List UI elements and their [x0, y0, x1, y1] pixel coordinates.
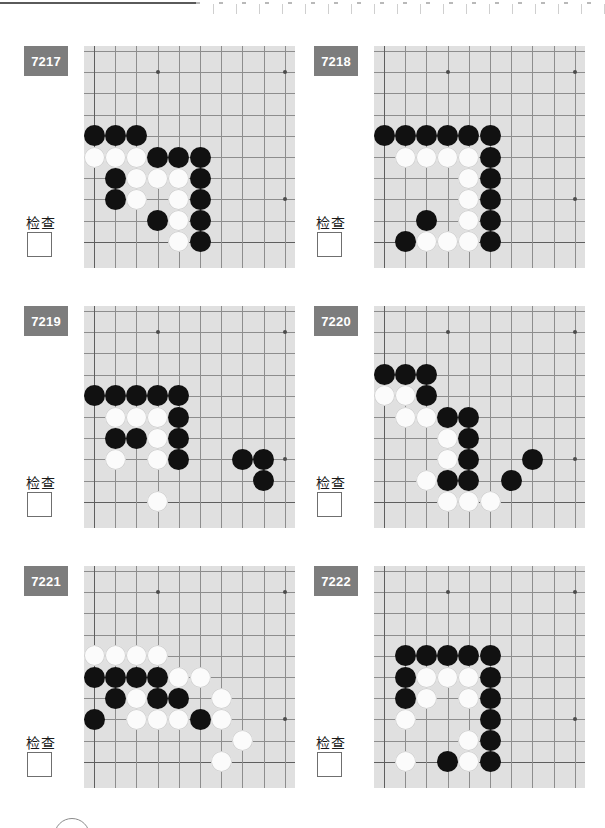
white-stone [168, 709, 189, 730]
black-stone [168, 428, 189, 449]
black-stone [395, 125, 416, 146]
white-stone [395, 147, 416, 168]
black-stone [395, 231, 416, 252]
white-stone [126, 645, 147, 666]
star-point [283, 197, 287, 201]
black-stone [437, 470, 458, 491]
white-stone [437, 667, 458, 688]
black-stone [480, 688, 501, 709]
black-stone [458, 645, 479, 666]
white-stone [437, 428, 458, 449]
grid-line-vertical [200, 306, 201, 528]
white-stone [458, 751, 479, 772]
check-checkbox[interactable] [317, 752, 342, 777]
go-board[interactable] [84, 46, 295, 268]
white-stone [190, 667, 211, 688]
black-stone [395, 645, 416, 666]
problem-id-badge: 7218 [314, 46, 358, 76]
black-stone [480, 645, 501, 666]
check-checkbox[interactable] [317, 232, 342, 257]
star-point [283, 330, 287, 334]
check-label: 检查 [316, 212, 346, 232]
check-checkbox[interactable] [27, 232, 52, 257]
black-stone [105, 385, 126, 406]
grid-line-vertical [264, 566, 265, 788]
white-stone [416, 147, 437, 168]
black-stone [126, 667, 147, 688]
black-stone [126, 125, 147, 146]
check-checkbox[interactable] [27, 752, 52, 777]
star-point [283, 590, 287, 594]
black-stone [126, 428, 147, 449]
white-stone [416, 667, 437, 688]
white-stone [437, 231, 458, 252]
check-label: 检查 [316, 732, 346, 752]
go-board[interactable] [84, 306, 295, 528]
white-stone [168, 210, 189, 231]
white-stone [84, 645, 105, 666]
black-stone [416, 210, 437, 231]
black-stone [168, 147, 189, 168]
star-point [573, 70, 577, 74]
problem-id-badge: 7221 [24, 566, 68, 596]
grid-line-vertical [264, 46, 265, 268]
white-stone [105, 407, 126, 428]
white-stone [126, 688, 147, 709]
go-board-grid [374, 46, 585, 268]
black-stone [458, 428, 479, 449]
grid-line-vertical [285, 566, 286, 788]
grid-line-vertical [532, 46, 533, 268]
star-point [446, 590, 450, 594]
black-stone [190, 147, 211, 168]
black-stone [395, 364, 416, 385]
grid-line-vertical [532, 306, 533, 528]
go-board[interactable] [374, 46, 585, 268]
white-stone [458, 491, 479, 512]
white-stone [126, 189, 147, 210]
go-board-grid [84, 566, 295, 788]
black-stone [105, 428, 126, 449]
black-stone [480, 189, 501, 210]
problem-panel: 7217检查 [24, 46, 295, 274]
go-board[interactable] [374, 566, 585, 788]
black-stone [374, 125, 395, 146]
grid-line-vertical [94, 306, 95, 528]
black-stone [437, 407, 458, 428]
header-rule-solid [0, 2, 196, 4]
black-stone [253, 470, 274, 491]
white-stone [458, 168, 479, 189]
black-stone [147, 385, 168, 406]
grid-line-vertical [532, 566, 533, 788]
black-stone [437, 645, 458, 666]
white-stone [395, 751, 416, 772]
black-stone [458, 407, 479, 428]
go-board[interactable] [84, 566, 295, 788]
white-stone [416, 231, 437, 252]
black-stone [84, 709, 105, 730]
black-stone [84, 667, 105, 688]
check-checkbox[interactable] [27, 492, 52, 517]
go-board-grid [84, 306, 295, 528]
black-stone [480, 231, 501, 252]
go-board[interactable] [374, 306, 585, 528]
check-checkbox[interactable] [317, 492, 342, 517]
problem-id-badge: 7217 [24, 46, 68, 76]
star-point [573, 330, 577, 334]
problem-panel: 7218检查 [314, 46, 585, 274]
white-stone [126, 709, 147, 730]
black-stone [480, 168, 501, 189]
white-stone [126, 147, 147, 168]
white-stone [147, 428, 168, 449]
black-stone [437, 751, 458, 772]
grid-line-vertical [285, 46, 286, 268]
problem-id-badge: 7222 [314, 566, 358, 596]
grid-line-vertical [384, 566, 385, 788]
grid-line-vertical [575, 566, 576, 788]
check-label: 检查 [26, 732, 56, 752]
black-stone [501, 470, 522, 491]
black-stone [232, 449, 253, 470]
black-stone [168, 407, 189, 428]
black-stone [147, 667, 168, 688]
white-stone [458, 730, 479, 751]
white-stone [437, 449, 458, 470]
